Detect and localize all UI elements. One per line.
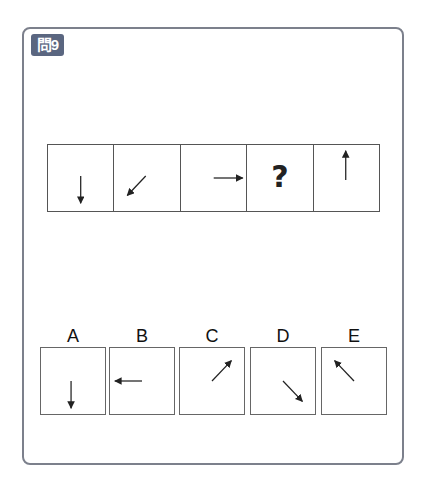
sequence-cell-2	[114, 145, 180, 211]
sequence-cell-3	[181, 145, 247, 211]
sequence-cell-5	[314, 145, 379, 211]
option-label: A	[40, 325, 106, 347]
option-box[interactable]	[40, 347, 106, 415]
option-c[interactable]: C	[179, 325, 245, 415]
arrow-up-icon	[314, 145, 379, 211]
option-a[interactable]: A	[40, 325, 106, 415]
question-number-badge: 問9	[31, 34, 64, 56]
arrow-left-icon	[110, 348, 174, 414]
arrow-down-icon	[41, 348, 105, 414]
option-label: E	[321, 325, 387, 347]
arrow-down-right-icon	[251, 348, 315, 414]
arrow-up-left-icon	[322, 348, 386, 414]
option-label: C	[179, 325, 245, 347]
option-label: B	[109, 325, 175, 347]
arrow-up-right-icon	[180, 348, 244, 414]
option-box[interactable]	[321, 347, 387, 415]
arrow-down-left-icon	[114, 145, 179, 211]
option-box[interactable]	[179, 347, 245, 415]
option-d[interactable]: D	[250, 325, 316, 415]
arrow-sequence: ?	[47, 144, 380, 212]
option-box[interactable]	[250, 347, 316, 415]
option-box[interactable]	[109, 347, 175, 415]
arrow-down-icon	[48, 145, 113, 211]
unknown-mark: ?	[247, 159, 312, 194]
option-b[interactable]: B	[109, 325, 175, 415]
arrow-right-icon	[181, 145, 246, 211]
sequence-cell-4: ?	[247, 145, 313, 211]
option-label: D	[250, 325, 316, 347]
option-e[interactable]: E	[321, 325, 387, 415]
sequence-cell-1	[48, 145, 114, 211]
